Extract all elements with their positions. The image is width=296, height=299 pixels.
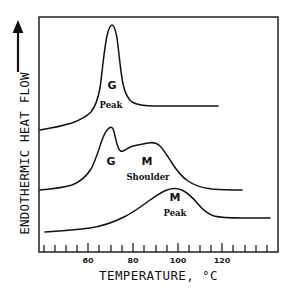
annotation-top-peak: Peak: [94, 100, 128, 110]
annotation-top-g: G: [105, 79, 119, 92]
annotation-bottom-peak: Peak: [158, 208, 192, 218]
x-axis-ticks: [44, 243, 267, 252]
dsc-thermogram-figure: ENDOTHERMIC HEAT FLOW: [0, 0, 296, 299]
x-tick-label-120: 120: [211, 257, 233, 265]
x-tick-label-100: 100: [167, 257, 189, 265]
x-axis-title: TEMPERATURE, °C: [39, 268, 278, 283]
curve-top-g-peak: [40, 25, 218, 130]
annotation-bottom-m: M: [167, 191, 183, 204]
x-tick-label-60: 60: [78, 257, 98, 265]
annotation-middle-g: G: [104, 155, 118, 168]
plot-area: [0, 0, 296, 299]
annotation-middle-m: M: [139, 155, 155, 168]
annotation-middle-shoulder: Shoulder: [122, 172, 174, 182]
x-tick-label-80: 80: [123, 257, 143, 265]
